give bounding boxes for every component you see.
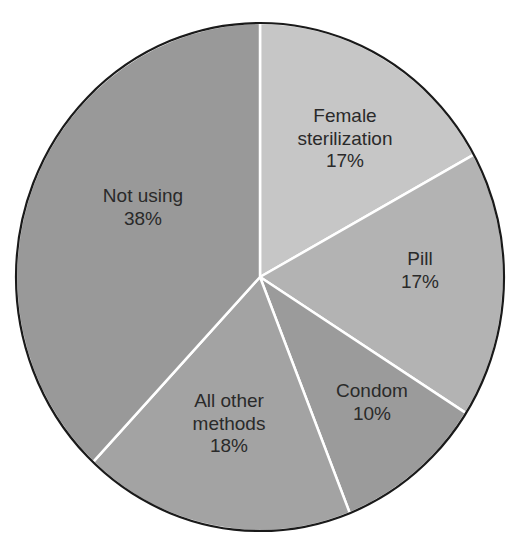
pie-chart: Femalesterilization17%Pill17%Condom10%Al… xyxy=(0,0,528,554)
